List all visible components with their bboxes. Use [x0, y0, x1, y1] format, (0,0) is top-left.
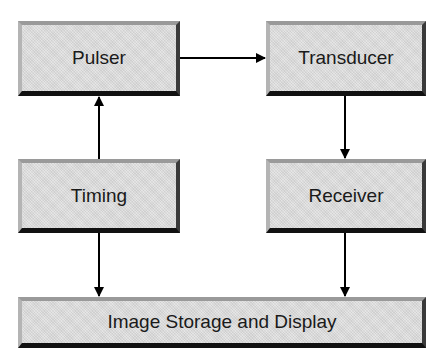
- timing-label: Timing: [71, 185, 127, 207]
- image-storage-box: Image Storage and Display: [18, 297, 426, 348]
- pulser-box: Pulser: [18, 21, 180, 96]
- pulser-label: Pulser: [72, 47, 126, 69]
- image-storage-label: Image Storage and Display: [107, 311, 336, 333]
- timing-box: Timing: [18, 159, 180, 233]
- receiver-box: Receiver: [266, 159, 426, 233]
- transducer-label: Transducer: [298, 47, 393, 69]
- receiver-label: Receiver: [309, 185, 384, 207]
- transducer-box: Transducer: [266, 21, 426, 96]
